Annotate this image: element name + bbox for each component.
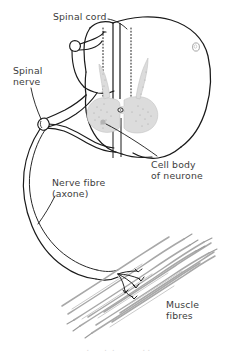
grey-matter-butterfly <box>87 58 158 133</box>
leader-nerve-fibre <box>38 196 55 224</box>
cell-body-marker <box>100 119 105 124</box>
leader-spinal-cord <box>108 19 127 29</box>
leader-spinal-nerve <box>31 88 41 119</box>
label-spinal-nerve: Spinal nerve <box>13 66 42 87</box>
label-muscle-fibres: Muscle fibres <box>166 300 199 321</box>
motor-axon <box>23 129 118 280</box>
label-spinal-cord: Spinal cord <box>53 12 107 23</box>
bottom-cropped-text: . . . . . <box>0 344 229 351</box>
central-canal <box>118 108 123 112</box>
anatomy-figure: Spinal cord Spinal nerve Nerve fibre (ax… <box>0 0 229 351</box>
label-cell-body-of-neurone: Cell body of neurone <box>151 160 203 181</box>
cord-surface-vessel <box>193 43 200 51</box>
label-nerve-fibre-axone: Nerve fibre (axone) <box>52 178 105 199</box>
